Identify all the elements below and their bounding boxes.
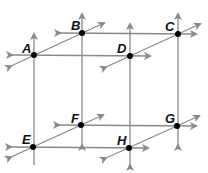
lines-diagram <box>0 0 208 173</box>
point-H <box>126 145 132 151</box>
label-A: A <box>22 42 31 55</box>
label-F: F <box>71 112 79 125</box>
diagram-canvas: A B C D E F G H <box>0 0 208 173</box>
point-C <box>175 31 181 37</box>
label-D: D <box>117 42 126 55</box>
label-G: G <box>165 112 175 125</box>
label-E: E <box>22 133 31 146</box>
point-A <box>31 52 37 58</box>
label-H: H <box>117 134 126 147</box>
label-B: B <box>71 19 80 32</box>
label-C: C <box>165 20 174 33</box>
point-D <box>127 53 133 59</box>
